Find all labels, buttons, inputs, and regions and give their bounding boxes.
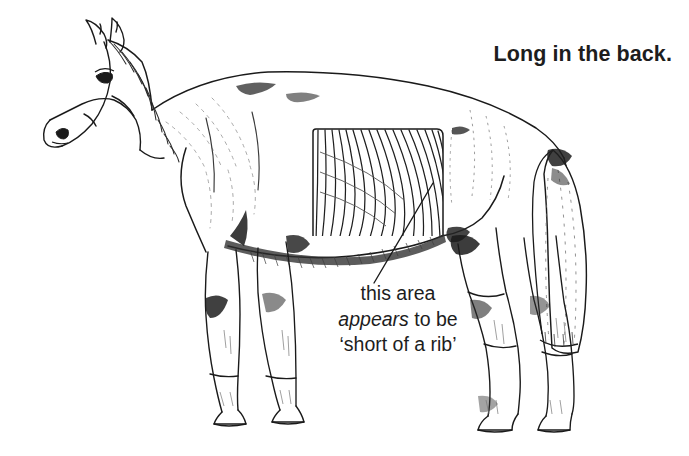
horse-body-outline	[108, 40, 569, 258]
horse-tail	[533, 149, 587, 353]
horse-head	[44, 42, 164, 158]
figure-root: Long in the back. this area appears to b…	[0, 0, 689, 456]
front-leg-far	[257, 242, 304, 424]
caption-line-3: ‘short of a rib’	[318, 332, 478, 358]
annotation-caption: this area appears to be ‘short of a rib’	[318, 281, 478, 358]
horse-eye	[95, 69, 114, 83]
neck-shoulder-shading	[166, 98, 255, 228]
front-leg-hatching	[220, 330, 291, 406]
rib-inner-contour	[320, 152, 404, 226]
front-leg-near	[205, 250, 246, 426]
horse-line-drawing	[0, 0, 689, 456]
caption-line-1: this area	[318, 281, 478, 307]
caption-line-2: appears to be	[318, 307, 478, 333]
point-of-hip	[452, 126, 470, 134]
horse-mane	[108, 40, 179, 162]
caption-line-2-rest: to be	[409, 308, 458, 330]
horse-nostril	[52, 128, 69, 143]
caption-emphasis: appears	[338, 308, 408, 330]
hindquarter-shading	[450, 110, 510, 206]
withers-shading	[236, 82, 320, 102]
horse-ears	[86, 18, 124, 52]
title-text: Long in the back.	[494, 41, 673, 68]
